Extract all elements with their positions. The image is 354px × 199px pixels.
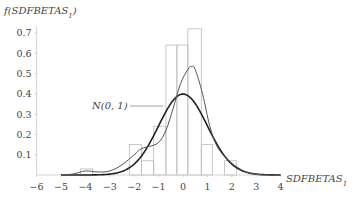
histogram-bar	[177, 45, 188, 175]
x-tick-label: 2	[229, 181, 235, 192]
x-tick-label: 3	[253, 181, 259, 192]
x-tick-label: −6	[30, 181, 44, 192]
normal-annotation-label: N(0, 1)	[91, 100, 128, 111]
x-tick-label: −2	[127, 181, 141, 192]
y-tick-label: 0.3	[16, 109, 31, 120]
x-tick-label: −4	[78, 181, 92, 192]
y-tick-label: 0.2	[16, 129, 31, 140]
axis-labels: f(SDFBETAS1) SDFBETAS1 N(0, 1)	[3, 5, 347, 188]
y-tick-label: 0.1	[16, 149, 31, 160]
density-curves	[61, 66, 281, 175]
histogram-bar	[142, 161, 154, 175]
x-tick-label: 1	[204, 181, 210, 192]
x-tick-label: −5	[54, 181, 68, 192]
histogram-bar	[129, 145, 141, 175]
density-chart: −6−5−4−3−2−1012340.10.20.30.40.50.60.7 f…	[0, 0, 354, 199]
axes: −6−5−4−3−2−1012340.10.20.30.40.50.60.7	[16, 27, 283, 192]
histogram-bar	[201, 145, 212, 175]
y-tick-label: 0.7	[16, 27, 31, 38]
y-tick-label: 0.6	[16, 48, 31, 59]
x-tick-label: −1	[152, 181, 166, 192]
x-tick-label: 0	[180, 181, 186, 192]
y-axis-title: f(SDFBETAS1)	[3, 5, 77, 20]
x-tick-label: −3	[103, 181, 117, 192]
y-tick-label: 0.5	[16, 68, 31, 79]
y-tick-label: 0.4	[16, 88, 31, 99]
x-axis-title: SDFBETAS1	[286, 173, 347, 188]
kernel-density-curve	[61, 66, 281, 175]
x-tick-label: 4	[278, 181, 284, 192]
